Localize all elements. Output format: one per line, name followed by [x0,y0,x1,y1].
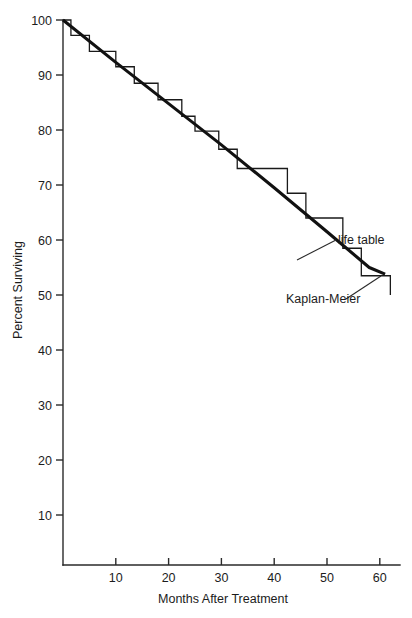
x-axis-ticks [116,558,380,565]
x-tick-label-40: 40 [267,571,281,585]
x-tick-label-50: 50 [320,571,334,585]
chart-canvas: 102030405060708090100 102030405060 life … [0,0,412,618]
y-axis-tick-labels: 102030405060708090100 [31,14,52,523]
x-tick-label-30: 30 [214,571,228,585]
series-group [63,20,390,295]
y-tick-label-30: 30 [38,399,52,413]
x-axis-tick-labels: 102030405060 [109,571,387,585]
x-axis-title: Months After Treatment [158,592,288,606]
y-tick-label-50: 50 [38,289,52,303]
y-axis-title: Percent Surviving [11,241,25,339]
y-tick-label-60: 60 [38,234,52,248]
y-axis-ticks [56,20,63,515]
y-tick-label-80: 80 [38,124,52,138]
survival-chart: 102030405060708090100 102030405060 life … [0,0,412,618]
y-tick-label-10: 10 [38,509,52,523]
y-tick-label-40: 40 [38,344,52,358]
x-tick-label-60: 60 [373,571,387,585]
life-table-smooth-curve [63,20,385,274]
y-tick-label-100: 100 [31,14,52,28]
y-tick-label-70: 70 [38,179,52,193]
annotation-leaders [297,240,381,299]
kaplan-meier-annotation: Kaplan-Meier [286,292,360,306]
life-table-annotation: life table [338,233,385,247]
x-tick-label-10: 10 [109,571,123,585]
x-tick-label-20: 20 [162,571,176,585]
y-tick-label-90: 90 [38,69,52,83]
life-table-leader-line [297,240,336,260]
y-tick-label-20: 20 [38,454,52,468]
